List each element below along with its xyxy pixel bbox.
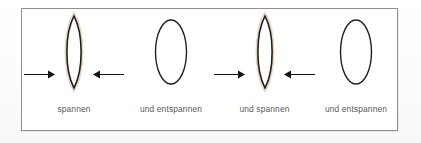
stage-4-caption: und entspannen xyxy=(313,104,399,114)
stage-3-shape-wrap xyxy=(216,9,313,101)
ellipse-shape-icon xyxy=(333,9,379,95)
stage-1-spannen: spannen xyxy=(22,9,126,132)
stage-2-shape-wrap xyxy=(126,9,216,101)
arrow-left-pointing-in-icon xyxy=(24,70,56,79)
arrow-left-pointing-in-icon xyxy=(214,70,246,79)
stage-4-shape-wrap xyxy=(313,9,399,101)
stage-4-und-entspannen: und entspannen xyxy=(313,9,399,132)
lens-shape-icon xyxy=(51,9,97,95)
arrow-right-pointing-in-icon xyxy=(92,70,124,79)
stage-3-caption: und spannen xyxy=(216,104,313,114)
stage-2-caption: und entspannen xyxy=(126,104,216,114)
stage-1-shape-wrap xyxy=(22,9,126,101)
stage-2-und-entspannen: und entspannen xyxy=(126,9,216,132)
figure-screenshot: spannen und entspannen xyxy=(0,0,421,143)
ellipse-shape-icon xyxy=(148,9,194,95)
arrow-right-pointing-in-icon xyxy=(283,70,315,79)
figure-frame: spannen und entspannen xyxy=(21,8,398,131)
stage-1-caption: spannen xyxy=(22,104,126,114)
lens-shape-icon xyxy=(242,9,288,95)
stage-3-und-spannen: und spannen xyxy=(216,9,313,132)
